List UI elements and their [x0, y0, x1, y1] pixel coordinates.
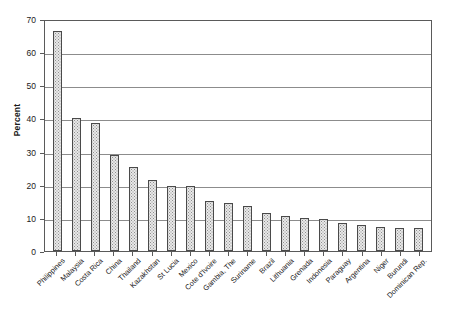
x-tick-mark	[342, 252, 343, 256]
bar	[91, 123, 100, 251]
plot-area	[44, 20, 432, 252]
x-tick-mark	[266, 252, 267, 256]
bar-slot	[105, 21, 124, 251]
bar	[376, 227, 385, 251]
bar-slot	[314, 21, 333, 251]
y-tick-label: 0	[14, 248, 36, 257]
bar-slot	[143, 21, 162, 251]
bar-slot	[390, 21, 409, 251]
x-tick-mark	[285, 252, 286, 256]
x-tick-mark	[209, 252, 210, 256]
bar	[186, 186, 195, 251]
x-tick-mark	[419, 252, 420, 256]
x-tick-mark	[94, 252, 95, 256]
x-tick-mark	[228, 252, 229, 256]
x-tick-mark	[304, 252, 305, 256]
bar-slot	[409, 21, 428, 251]
x-tick-mark	[56, 252, 57, 256]
x-tick-mark	[323, 252, 324, 256]
bar	[357, 225, 366, 252]
y-tick-label: 60	[14, 49, 36, 58]
bar	[243, 206, 252, 251]
bar-slot	[67, 21, 86, 251]
bar-slot	[238, 21, 257, 251]
bar-chart: Percent 010203040506070 PhilippinesMalay…	[0, 0, 449, 317]
y-tick-label: 30	[14, 149, 36, 158]
bar-slot	[333, 21, 352, 251]
bar	[414, 228, 423, 251]
bar-slot	[219, 21, 238, 251]
bar-series	[45, 21, 431, 251]
bar	[53, 31, 62, 251]
bar-slot	[48, 21, 67, 251]
x-axis-labels: PhilippinesMalaysiaCosta RicaChinaThaila…	[44, 257, 432, 317]
y-tick-label: 50	[14, 82, 36, 91]
bar	[281, 216, 290, 251]
bar-slot	[200, 21, 219, 251]
bar	[205, 201, 214, 251]
x-tick-mark	[400, 252, 401, 256]
y-tick-label: 40	[14, 115, 36, 124]
bar-slot	[352, 21, 371, 251]
x-tick-mark	[171, 252, 172, 256]
bar-slot	[162, 21, 181, 251]
y-tick-label: 70	[14, 16, 36, 25]
bar-slot	[257, 21, 276, 251]
bar-slot	[124, 21, 143, 251]
bar-slot	[181, 21, 200, 251]
bar	[395, 228, 404, 251]
x-tick-mark	[362, 252, 363, 256]
bar-slot	[276, 21, 295, 251]
bar	[167, 186, 176, 251]
bar	[262, 213, 271, 251]
bar	[129, 167, 138, 252]
y-tick-label: 10	[14, 215, 36, 224]
bar	[72, 118, 81, 251]
bar-slot	[295, 21, 314, 251]
x-tick-mark	[247, 252, 248, 256]
bar-slot	[86, 21, 105, 251]
x-tick-mark	[75, 252, 76, 256]
x-tick-mark	[381, 252, 382, 256]
bar	[224, 203, 233, 251]
bar	[110, 155, 119, 251]
x-tick-mark	[132, 252, 133, 256]
y-tick-label: 20	[14, 182, 36, 191]
bar	[338, 223, 347, 251]
x-tick-mark	[152, 252, 153, 256]
bar	[300, 218, 309, 251]
x-tick-mark	[190, 252, 191, 256]
x-tick-mark	[113, 252, 114, 256]
bar	[148, 180, 157, 251]
bar-slot	[371, 21, 390, 251]
bar	[319, 219, 328, 251]
